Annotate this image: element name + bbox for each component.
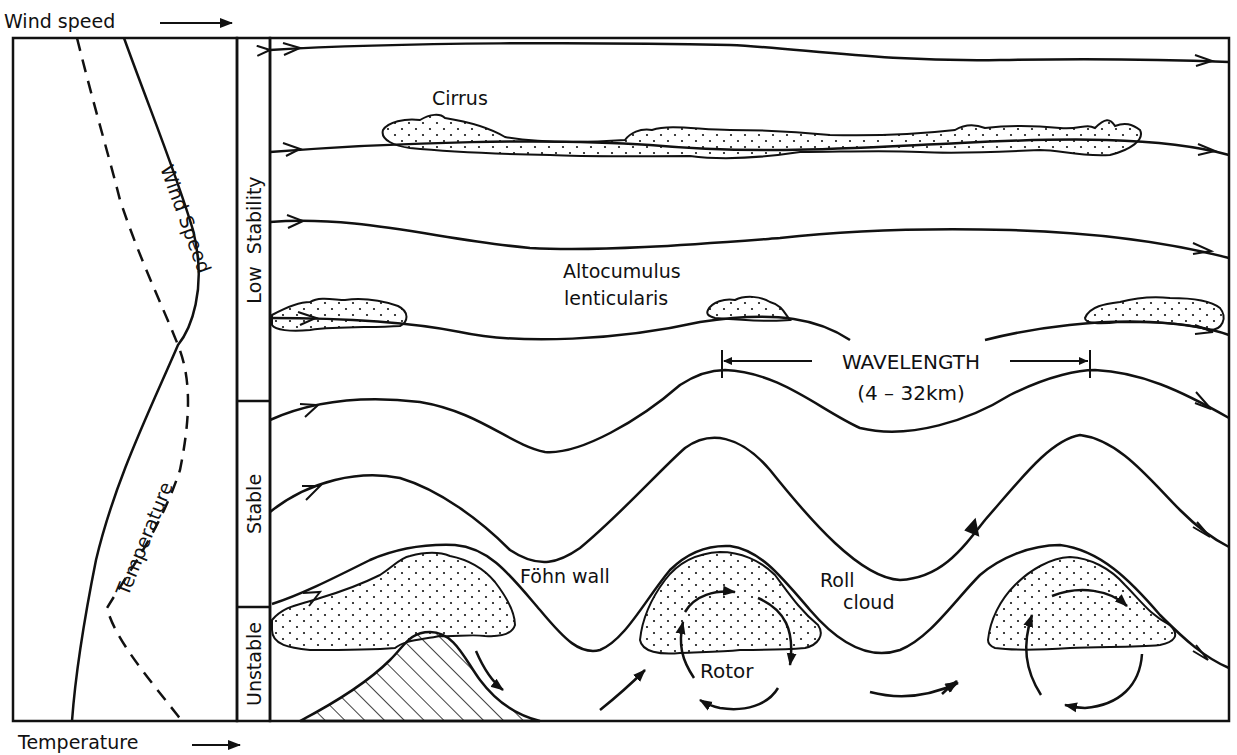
wavelength-label: WAVELENGTH: [842, 350, 980, 374]
altocumulus-label-line1: Altocumulus: [563, 260, 681, 282]
ascent-arrow-1: [600, 670, 645, 710]
rotor-bottom-arrow-1: [700, 688, 778, 709]
stability-column: Low Stability Stable Unstable: [237, 38, 270, 721]
profile-panel: [13, 38, 237, 721]
streamline-5: [270, 370, 1229, 452]
wind-speed-curve: [72, 38, 199, 721]
cirrus-cloud: [383, 115, 1141, 158]
fohn-wall-cloud: [272, 553, 515, 650]
mountain-wave-diagram: Wind speed Temperature Wind Speed Temper…: [0, 0, 1237, 755]
roll-cloud-right: [988, 557, 1175, 650]
wavelength-range: (4 – 32km): [857, 381, 965, 405]
arrowhead-icon: [1193, 243, 1211, 254]
rotor-label: Rotor: [700, 659, 754, 683]
temperature-axis-text: Temperature: [17, 731, 138, 753]
fohn-wall-label: Föhn wall: [520, 565, 610, 587]
unstable-label: Unstable: [243, 622, 265, 706]
arrowhead-icon: [966, 520, 978, 535]
roll-cloud-label-line1: Roll: [820, 569, 855, 591]
wind-speed-axis-text: Wind speed: [4, 10, 115, 32]
rotor-bottom-arrow-2: [1065, 654, 1142, 708]
wind-speed-curve-label: Wind Speed: [156, 162, 215, 276]
temperature-curve: [77, 38, 188, 721]
temperature-curve-label: Temperature: [111, 479, 177, 600]
wavelength-indicator: WAVELENGTH (4 – 32km): [722, 350, 1090, 405]
bottom-axis-label: Temperature: [17, 731, 240, 753]
lenticular-cloud-left: [272, 299, 407, 331]
ascent-arrow-2: [870, 683, 958, 696]
roll-cloud-middle: [640, 552, 821, 654]
lenticular-cloud-right: [1085, 297, 1224, 330]
stable-label: Stable: [243, 474, 265, 534]
streamline-3: [270, 221, 1229, 258]
top-axis-label: Wind speed: [4, 10, 232, 32]
cirrus-label: Cirrus: [432, 87, 488, 109]
altocumulus-label-line2: lenticularis: [564, 287, 668, 309]
streamline-1: [270, 43, 1229, 62]
roll-cloud-label-line2: cloud: [843, 591, 894, 613]
low-stability-label: Low Stability: [243, 176, 265, 303]
